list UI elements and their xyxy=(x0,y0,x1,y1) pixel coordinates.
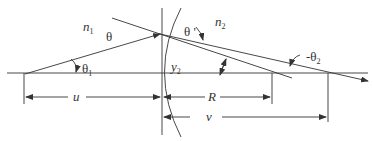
normal-line xyxy=(112,18,292,78)
n2-label: n2 xyxy=(215,15,226,31)
theta-prime-pointer xyxy=(196,27,203,40)
incident-ray xyxy=(25,34,160,74)
theta1-angle-arrow xyxy=(71,59,76,72)
theta-prime-label: θ ' xyxy=(184,25,196,38)
theta-label: θ xyxy=(106,30,112,43)
theta1-label: θ1 xyxy=(82,62,92,78)
u-label: u xyxy=(73,90,80,103)
refraction-diagram xyxy=(0,0,373,141)
r-label: R xyxy=(208,90,216,103)
y2-label: y2 xyxy=(171,60,181,76)
v-label: v xyxy=(206,110,212,123)
refracted-ray xyxy=(160,34,368,81)
neg-theta2-label: -θ2 xyxy=(306,50,321,66)
n1-label: n1 xyxy=(83,20,94,36)
